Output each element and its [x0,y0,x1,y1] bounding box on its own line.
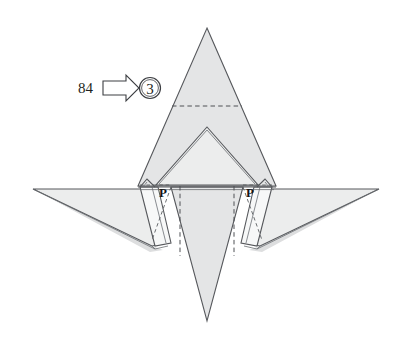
origami-figure: P P 84 3 [0,0,402,353]
step-annotation-group: 84 3 [78,75,161,101]
bottom-spike-face [171,187,243,321]
bottom-spike-group [171,187,243,321]
step-number-label: 3 [146,81,154,97]
reference-number-label: 84 [78,80,94,96]
point-label-p-right: P [246,185,254,200]
point-label-p-left: P [159,185,167,200]
right-block-arrow-icon [103,75,139,101]
origami-diagram-root: P P 84 3 [0,0,402,353]
